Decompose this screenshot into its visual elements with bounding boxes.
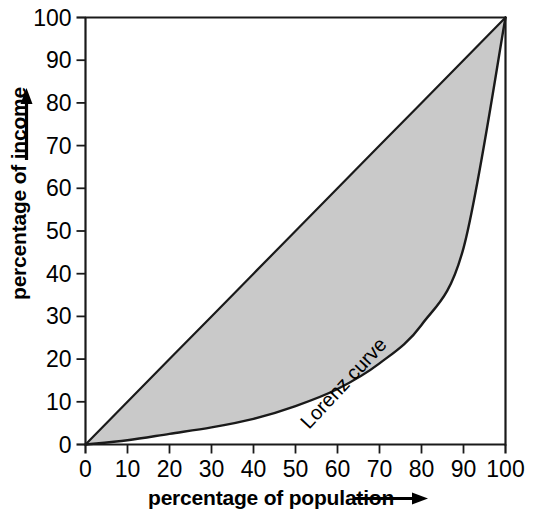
y-tick-label: 60 — [46, 175, 72, 201]
x-axis-ticks — [86, 445, 506, 454]
x-tick-label: 70 — [367, 456, 393, 482]
y-tick-label: 30 — [46, 303, 72, 329]
y-tick-label: 80 — [46, 90, 72, 116]
y-tick-label: 70 — [46, 133, 72, 159]
x-tick-label: 90 — [451, 456, 477, 482]
y-tick-label: 10 — [46, 389, 72, 415]
x-tick-label: 80 — [409, 456, 435, 482]
y-tick-label: 50 — [46, 218, 72, 244]
x-tick-label: 10 — [115, 456, 141, 482]
y-axis-tick-labels: 0102030405060708090100 — [33, 5, 71, 458]
y-tick-label: 20 — [46, 346, 72, 372]
y-tick-label: 90 — [46, 47, 72, 73]
x-tick-label: 30 — [199, 456, 225, 482]
y-tick-label: 40 — [46, 261, 72, 287]
y-tick-label: 0 — [59, 432, 72, 458]
x-axis-tick-labels: 0102030405060708090100 — [79, 456, 525, 482]
x-tick-label: 50 — [283, 456, 309, 482]
x-tick-label: 20 — [157, 456, 183, 482]
y-axis-ticks — [77, 18, 86, 445]
x-tick-label: 100 — [486, 456, 524, 482]
y-axis-title-group: percentage of income — [7, 87, 33, 300]
chart-canvas: 0102030405060708090100 01020304050607080… — [0, 0, 547, 524]
x-axis-title-group: percentage of population — [148, 486, 428, 509]
y-tick-label: 100 — [33, 5, 71, 31]
x-tick-label: 60 — [325, 456, 351, 482]
x-tick-label: 0 — [79, 456, 92, 482]
lorenz-curve-chart: 0102030405060708090100 01020304050607080… — [0, 0, 547, 524]
x-tick-label: 40 — [241, 456, 267, 482]
